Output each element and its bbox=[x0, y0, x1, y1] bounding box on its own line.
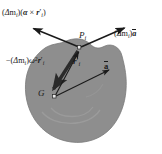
diagram-canvas bbox=[0, 0, 162, 154]
label-center-of-mass: G bbox=[38, 89, 45, 98]
rigid-body-diagram: (Δmi)(α × r′i) (Δmi)a −(Δmi)ω2r′i Pi r′i… bbox=[0, 0, 162, 154]
point-marker-Pi bbox=[77, 46, 80, 49]
label-centripetal-inertial-force: −(Δmi)ω2r′i bbox=[6, 57, 44, 67]
label-mean-acceleration: a bbox=[104, 62, 108, 71]
label-tangential-inertial-force: (Δmi)(α × r′i) bbox=[2, 9, 46, 19]
label-mass-times-acceleration: (Δmi)a bbox=[114, 30, 136, 40]
label-position-vector: r′i bbox=[73, 57, 80, 67]
label-point-Pi: Pi bbox=[79, 31, 86, 41]
point-marker-G bbox=[53, 95, 56, 98]
